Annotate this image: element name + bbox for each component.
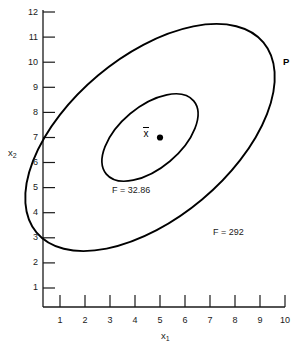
y-axis-ticks <box>43 12 55 288</box>
x-tick-label-4: 4 <box>126 316 144 325</box>
y-tick-label-4: 4 <box>20 208 38 217</box>
y-tick-label-1: 1 <box>20 283 38 292</box>
y-tick-label-12: 12 <box>20 8 38 17</box>
point-p-label: P <box>283 57 289 67</box>
outer-contour-label: F = 292 <box>213 228 244 237</box>
x-tick-label-10: 10 <box>276 316 294 325</box>
axes-group <box>43 10 285 307</box>
x-tick-label-2: 2 <box>76 316 94 325</box>
y-tick-label-8: 8 <box>20 108 38 117</box>
y-tick-label-10: 10 <box>20 58 38 67</box>
mean-point-marker <box>157 134 163 140</box>
mean-symbol: x <box>143 129 149 139</box>
contour-plot-svg <box>0 0 297 345</box>
x-axis-ticks <box>60 295 285 307</box>
y-tick-label-9: 9 <box>20 83 38 92</box>
inner-contour-label: F = 32.86 <box>112 186 150 195</box>
x-tick-label-9: 9 <box>251 316 269 325</box>
mean-vector-label: x <box>143 127 149 139</box>
y-tick-label-11: 11 <box>20 33 38 42</box>
x-tick-label-5: 5 <box>151 316 169 325</box>
y-axis-title: x2 <box>8 148 17 158</box>
x-tick-label-3: 3 <box>101 316 119 325</box>
x-tick-label-6: 6 <box>176 316 194 325</box>
x-tick-label-7: 7 <box>201 316 219 325</box>
y-tick-label-2: 2 <box>20 258 38 267</box>
y-tick-label-6: 6 <box>20 158 38 167</box>
x-tick-label-8: 8 <box>226 316 244 325</box>
figure-container: 12 11 10 9 8 7 6 5 4 3 2 1 1 2 3 4 5 6 7… <box>0 0 297 345</box>
x-tick-label-1: 1 <box>51 316 69 325</box>
y-tick-label-5: 5 <box>20 183 38 192</box>
contour-ellipse-outer <box>0 0 297 295</box>
y-tick-label-3: 3 <box>20 233 38 242</box>
x-axis-title: x1 <box>161 331 170 341</box>
y-tick-label-7: 7 <box>20 133 38 142</box>
contour-ellipse-inner <box>86 77 213 198</box>
